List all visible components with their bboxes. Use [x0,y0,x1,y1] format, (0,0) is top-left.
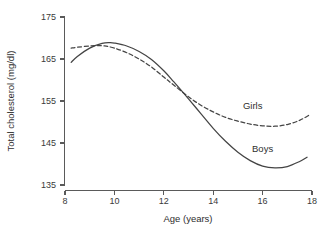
y-axis-title: Total cholesterol (mg/dl) [5,51,16,152]
y-tick-label: 145 [41,138,56,148]
cholesterol-age-line-chart: 135145155165175 81012141618 BoysGirls To… [0,0,329,234]
series-label-boys: Boys [252,143,273,154]
x-tick-label: 10 [109,196,119,206]
y-axis: 135145155165175 [41,12,65,190]
x-axis-title: Age (years) [163,213,212,224]
y-tick-label: 175 [41,12,56,22]
series-line-girls [71,46,309,127]
x-tick-label: 18 [307,196,317,206]
chart-canvas: 135145155165175 81012141618 BoysGirls To… [0,0,329,234]
y-tick-label: 135 [41,180,56,190]
x-axis: 81012141618 [62,191,317,207]
x-tick-label: 14 [208,196,218,206]
series-label-girls: Girls [243,100,263,111]
x-tick-label: 12 [159,196,169,206]
x-tick-label: 16 [258,196,268,206]
y-tick-label: 165 [41,54,56,64]
x-tick-label: 8 [62,196,67,206]
y-tick-label: 155 [41,96,56,106]
series-layer: BoysGirls [71,43,309,168]
